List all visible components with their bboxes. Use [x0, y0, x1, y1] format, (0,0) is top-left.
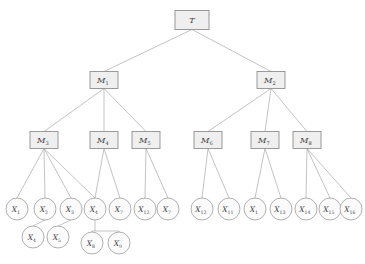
- tree-edge: [146, 149, 168, 199]
- tree-node-x9[interactable]: X9: [108, 232, 130, 254]
- tree-node-x13[interactable]: X13: [270, 198, 292, 220]
- brackets-layer: [92, 220, 119, 232]
- tree-node-t[interactable]: T: [175, 11, 209, 30]
- tree-edge: [265, 149, 281, 199]
- tree-edge: [208, 149, 229, 199]
- tree-node-x15[interactable]: X15: [319, 198, 341, 220]
- tree-edge: [44, 89, 104, 132]
- tree-node-m3[interactable]: M3: [30, 132, 58, 149]
- tree-edge: [202, 149, 208, 199]
- tree-node-x2[interactable]: X2: [34, 198, 56, 220]
- tree-node-m5[interactable]: M5: [132, 132, 160, 149]
- tree-node-x5[interactable]: X5: [47, 226, 69, 248]
- tree-edge: [33, 220, 45, 226]
- tree-diagram: TM1M2M3M4M5M6M7M8X1X2X3X4X7X12X7X12X11X1…: [0, 0, 365, 264]
- tree-svg-canvas: TM1M2M3M4M5M6M7M8X1X2X3X4X7X12X7X12X11X1…: [0, 0, 365, 264]
- tree-node-x12a[interactable]: X12: [134, 198, 156, 220]
- tree-node-x1b[interactable]: X1: [244, 198, 266, 220]
- tree-node-x7a[interactable]: X7: [109, 198, 131, 220]
- tree-node-x3[interactable]: X3: [60, 198, 82, 220]
- node-label: T: [189, 15, 195, 25]
- tree-node-x4[interactable]: X4: [84, 198, 106, 220]
- tree-node-m1[interactable]: M1: [90, 72, 118, 89]
- tree-edge: [208, 89, 271, 132]
- tree-edge: [44, 149, 45, 199]
- tree-node-x1[interactable]: X1: [6, 198, 28, 220]
- tree-node-x14[interactable]: X14: [295, 198, 317, 220]
- tree-node-m6[interactable]: M6: [194, 132, 222, 149]
- tree-edge: [192, 30, 271, 72]
- tree-node-x4b[interactable]: X4: [22, 226, 44, 248]
- tree-node-x8[interactable]: X8: [81, 232, 103, 254]
- tree-edge: [104, 89, 146, 132]
- nodes-layer: TM1M2M3M4M5M6M7M8X1X2X3X4X7X12X7X12X11X1…: [6, 11, 362, 255]
- tree-edge: [104, 149, 120, 199]
- tree-edge: [95, 149, 104, 199]
- tree-node-x16[interactable]: X16: [340, 198, 362, 220]
- tree-edge: [307, 149, 330, 199]
- tree-edge: [58, 220, 71, 226]
- tree-node-x11[interactable]: X11: [218, 198, 240, 220]
- tree-edge: [271, 89, 307, 132]
- tree-edge: [44, 149, 71, 199]
- tree-edge: [145, 149, 146, 199]
- tree-edge: [307, 149, 351, 199]
- tree-edge: [306, 149, 307, 199]
- tree-node-m2[interactable]: M2: [257, 72, 285, 89]
- tree-edge: [104, 30, 192, 72]
- tree-node-m8[interactable]: M8: [293, 132, 321, 149]
- tree-node-m7[interactable]: M7: [251, 132, 279, 149]
- tree-edge: [44, 149, 95, 199]
- tree-edge: [265, 89, 271, 132]
- tree-edge: [17, 149, 44, 199]
- tree-edge: [255, 149, 265, 199]
- tree-node-x12b[interactable]: X12: [191, 198, 213, 220]
- tree-node-x7b[interactable]: X7: [157, 198, 179, 220]
- tree-node-m4[interactable]: M4: [90, 132, 118, 149]
- edges-layer: [17, 30, 351, 227]
